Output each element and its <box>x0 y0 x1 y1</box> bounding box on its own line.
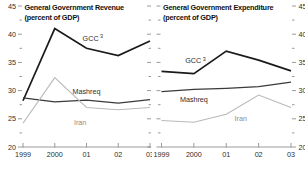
revenue-y-tick-label: 40 <box>8 30 16 39</box>
expenditure-y-tick-label: 45 <box>299 2 306 11</box>
expenditure-y-tick-label: 30 <box>299 86 306 95</box>
expenditure-title: General Government Expenditure <box>163 3 274 12</box>
revenue-x-tick-label: 02 <box>114 150 122 159</box>
expenditure-series-line-gcc <box>162 51 292 74</box>
revenue-x-tick-label: 1999 <box>15 150 31 159</box>
expenditure-series-label-gcc: GCC 3 <box>185 56 205 66</box>
revenue-y-tick-label: 35 <box>8 58 16 67</box>
revenue-y-tick-label: 30 <box>8 86 16 95</box>
expenditure-series-label-mashreq: Mashreq <box>180 95 208 104</box>
expenditure-x-tick-label: 02 <box>255 150 263 159</box>
revenue-y-tick-label: 45 <box>8 2 16 11</box>
expenditure-chart: 19992000010203202530354045General Govern… <box>152 0 305 182</box>
expenditure-x-tick-label: 1999 <box>154 150 170 159</box>
expenditure-series-label-superscript: 3 <box>201 56 206 62</box>
expenditure-y-tick-label: 35 <box>299 58 306 67</box>
revenue-y-tick-label: 20 <box>8 143 16 152</box>
revenue-x-tick-label: 01 <box>83 150 91 159</box>
expenditure-series-label-iran: Iran <box>235 114 247 123</box>
expenditure-subtitle: (percent of GDP) <box>163 13 219 22</box>
revenue-y-tick-label: 25 <box>8 114 16 123</box>
gdp-revenue-expenditure-figure: 19992000010203202530354045General Govern… <box>0 0 305 182</box>
expenditure-y-tick-label: 40 <box>299 30 306 39</box>
revenue-subtitle: (percent of GDP) <box>25 13 81 22</box>
revenue-series-label-iran: Iran <box>74 118 86 127</box>
expenditure-x-tick-label: 03 <box>287 150 295 159</box>
expenditure-y-tick-label: 20 <box>299 143 306 152</box>
expenditure-y-tick-label: 25 <box>299 114 306 123</box>
revenue-series-label-gcc: GCC 3 <box>83 33 103 43</box>
expenditure-x-tick-label: 01 <box>222 150 230 159</box>
revenue-title: General Government Revenue <box>25 3 125 12</box>
revenue-chart: 19992000010203202530354045General Govern… <box>0 0 152 182</box>
expenditure-series-line-mashreq <box>162 82 292 92</box>
expenditure-x-tick-label: 2000 <box>186 150 202 159</box>
revenue-series-label-mashreq: Mashreq <box>73 87 101 96</box>
revenue-x-tick-label: 2000 <box>47 150 63 159</box>
revenue-series-line-mashreq <box>23 98 150 103</box>
revenue-series-label-superscript: 3 <box>99 33 104 39</box>
